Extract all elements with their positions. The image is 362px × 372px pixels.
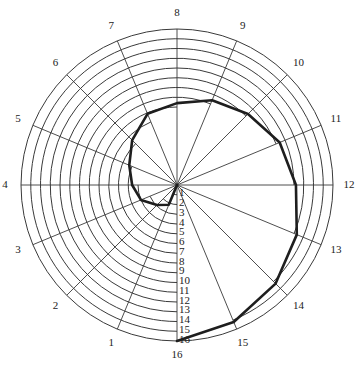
spoke-label-12: 12 xyxy=(344,178,355,190)
spoke-11 xyxy=(177,125,321,185)
spoke-label-3: 3 xyxy=(15,243,21,255)
ring-label-16: 16 xyxy=(179,333,191,345)
spoke-label-6: 6 xyxy=(53,56,59,68)
spoke-2 xyxy=(67,185,177,295)
spoke-label-8: 8 xyxy=(174,6,180,18)
spoke-6 xyxy=(67,75,177,185)
spoke-label-7: 7 xyxy=(108,19,114,31)
spoke-label-4: 4 xyxy=(2,178,8,190)
spoke-label-10: 10 xyxy=(293,56,305,68)
spoke-label-13: 13 xyxy=(330,243,342,255)
spoke-label-14: 14 xyxy=(293,299,305,311)
spoke-label-16: 16 xyxy=(172,348,184,360)
spoke-14 xyxy=(177,185,287,295)
spoke-label-9: 9 xyxy=(240,19,246,31)
spoke-label-2: 2 xyxy=(53,299,59,311)
spoke-label-11: 11 xyxy=(331,112,342,124)
polar-spiral-chart: 12345678910111213141516 1234567891011121… xyxy=(0,0,362,372)
spoke-10 xyxy=(177,75,287,185)
spoke-9 xyxy=(177,41,237,185)
radial-tick-labels: 12345678910111213141516 xyxy=(179,186,191,344)
spoke-label-1: 1 xyxy=(108,336,114,348)
spoke-label-5: 5 xyxy=(15,112,21,124)
spoke-13 xyxy=(177,185,321,245)
spoke-label-15: 15 xyxy=(237,336,249,348)
